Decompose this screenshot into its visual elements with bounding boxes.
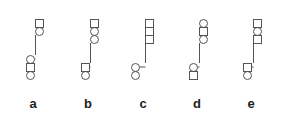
option-label-b: b: [78, 96, 98, 111]
option-label-e: e: [241, 96, 261, 111]
figures-layer: [27, 20, 262, 80]
option-label-a: a: [23, 96, 43, 111]
option-label-c: c: [133, 96, 153, 111]
option-label-d: d: [187, 96, 207, 111]
